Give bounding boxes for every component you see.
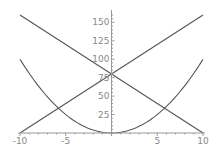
- x-tick-label: 10: [197, 136, 209, 146]
- x-tick-label: 5: [154, 136, 160, 146]
- y-tick-label: 125: [92, 36, 109, 46]
- y-tick-label: 50: [98, 91, 110, 101]
- y-tick-label: 150: [92, 17, 109, 27]
- x-tick-label: -5: [61, 136, 70, 146]
- y-tick-label: 75: [98, 73, 109, 83]
- plot-area: -10-5510 255075100125150: [0, 0, 222, 150]
- y-tick-label: 100: [92, 54, 109, 64]
- x-tick-labels: -10-5510: [13, 136, 209, 146]
- y-tick-label: 25: [98, 110, 109, 120]
- y-tick-labels: 255075100125150: [92, 17, 109, 119]
- axes-group: [18, 10, 205, 136]
- x-tick-label: -10: [13, 136, 28, 146]
